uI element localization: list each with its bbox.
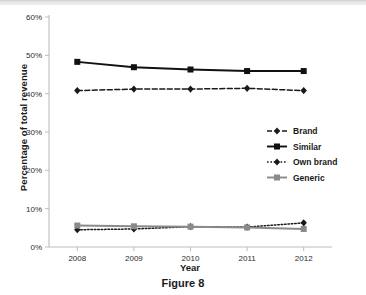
axis-lines-group: [49, 15, 332, 247]
legend-swatch-marker-brand: [274, 127, 280, 134]
chart-legend: BrandSimilarOwn brandGeneric: [267, 126, 337, 183]
series-marker-brand: [301, 87, 307, 94]
series-marker-generic: [74, 223, 80, 229]
figure-caption: Figure 8: [0, 277, 366, 289]
x-axis-title: Year: [45, 262, 335, 273]
chart-plot-area: 0%10%20%30%40%50%60% 2008200920102011201…: [0, 0, 366, 268]
series-marker-similar: [301, 68, 307, 74]
legend-label-generic: Generic: [293, 173, 325, 183]
y-axis-title: Percentage of total revenue: [18, 43, 29, 213]
legend-swatch-marker-own-brand: [274, 158, 280, 165]
series-marker-brand: [187, 85, 193, 92]
x-axis-tick-group: 20082009201020112012: [68, 247, 313, 263]
series-marker-similar: [188, 67, 194, 73]
series-marker-brand: [244, 85, 250, 92]
y-axis-tick-label: 0%: [30, 243, 42, 252]
series-marker-generic: [301, 226, 307, 232]
series-marker-generic: [188, 224, 194, 230]
legend-label-brand: Brand: [293, 126, 318, 136]
y-axis-tick-label: 60%: [26, 13, 42, 22]
series-marker-own-brand: [301, 219, 307, 226]
legend-swatch-marker-similar: [274, 144, 280, 150]
y-axis-tick-group: 0%10%20%30%40%50%60%: [26, 13, 49, 252]
figure-8-container: 0%10%20%30%40%50%60% 2008200920102011201…: [0, 0, 366, 295]
legend-label-own-brand: Own brand: [293, 157, 337, 167]
legend-swatch-marker-generic: [274, 175, 280, 181]
series-marker-generic: [131, 223, 137, 229]
series-marker-brand: [131, 85, 137, 92]
series-marker-similar: [74, 59, 80, 65]
series-marker-brand: [74, 87, 80, 94]
legend-label-similar: Similar: [293, 142, 322, 152]
series-marker-generic: [244, 224, 250, 230]
series-marker-similar: [244, 68, 250, 74]
line-chart-svg: 0%10%20%30%40%50%60% 2008200920102011201…: [0, 0, 366, 268]
series-marker-similar: [131, 64, 137, 70]
